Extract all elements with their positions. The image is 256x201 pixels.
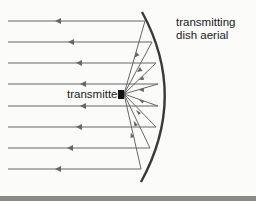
diagram-canvas: transmitting dish aerial transmitter: [0, 0, 256, 196]
diverging-rays: [124, 21, 158, 169]
frame-bottom-border: [0, 196, 256, 201]
dish-reflector: [141, 12, 165, 182]
dish-label-line2: dish aerial: [176, 29, 228, 42]
transmitter-label: transmitter: [67, 88, 121, 101]
dish-label-line1: transmitting: [176, 16, 235, 29]
